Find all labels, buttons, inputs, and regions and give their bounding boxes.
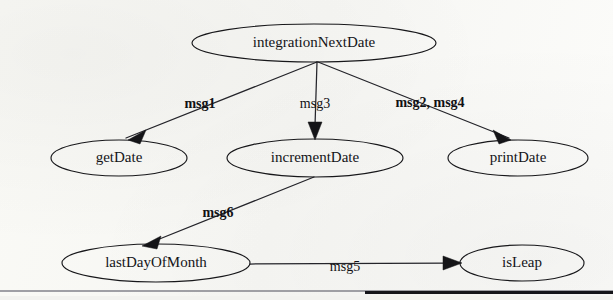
edge-label-msg5: msg5 bbox=[330, 259, 360, 274]
edge-label-msg1: msg1 bbox=[184, 96, 215, 111]
node-label-last-day-of-month: lastDayOfMonth bbox=[105, 254, 207, 270]
edge-msg5-arrowhead bbox=[443, 256, 462, 270]
edge-msg2-msg4[interactable]: msg2, msg4 bbox=[318, 62, 511, 144]
edge-msg5[interactable]: msg5 bbox=[250, 256, 462, 274]
edge-msg1[interactable]: msg1 bbox=[126, 62, 317, 144]
edge-label-msg6: msg6 bbox=[202, 205, 233, 220]
edge-msg6-arrowhead bbox=[142, 236, 161, 249]
call-graph-diagram: msg1 msg3 msg2, msg4 msg6 msg5 bbox=[0, 0, 613, 300]
node-print-date[interactable]: printDate bbox=[448, 140, 588, 176]
node-increment-date[interactable]: incrementDate bbox=[227, 139, 403, 177]
node-is-leap[interactable]: isLeap bbox=[460, 245, 584, 281]
diagram-page: msg1 msg3 msg2, msg4 msg6 msg5 bbox=[0, 0, 613, 300]
edge-msg3[interactable]: msg3 bbox=[300, 62, 330, 140]
node-integration-next-date[interactable]: integrationNextDate bbox=[192, 24, 436, 62]
edge-label-msg3: msg3 bbox=[300, 96, 330, 111]
edge-msg3-line bbox=[315, 62, 317, 126]
page-bottom-edge bbox=[0, 296, 613, 300]
node-label-print-date: printDate bbox=[490, 149, 547, 165]
edge-msg1-line bbox=[126, 62, 317, 138]
node-last-day-of-month[interactable]: lastDayOfMonth bbox=[62, 244, 250, 282]
edge-msg2-msg4-arrowhead bbox=[493, 130, 511, 144]
page-footer-rule-dark bbox=[365, 291, 613, 294]
node-label-integration-next-date: integrationNextDate bbox=[253, 34, 376, 50]
node-get-date[interactable]: getDate bbox=[51, 140, 187, 176]
node-label-is-leap: isLeap bbox=[502, 254, 542, 270]
node-label-increment-date: incrementDate bbox=[271, 149, 360, 165]
edge-msg3-arrowhead bbox=[308, 122, 322, 140]
edge-msg1-arrowhead bbox=[128, 130, 146, 144]
edge-msg6[interactable]: msg6 bbox=[142, 177, 314, 249]
node-label-get-date: getDate bbox=[96, 149, 143, 165]
edge-label-msg2-msg4: msg2, msg4 bbox=[395, 95, 464, 110]
